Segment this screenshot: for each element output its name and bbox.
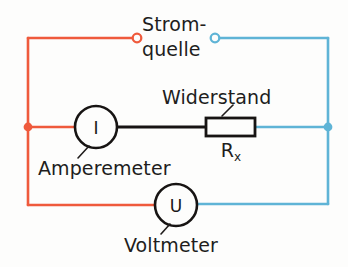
- source-label-line2: quelle: [142, 38, 201, 60]
- negative-terminal-icon[interactable]: [211, 34, 220, 43]
- voltmeter-letter: U: [170, 196, 182, 216]
- positive-terminal-icon[interactable]: [133, 34, 142, 43]
- resistor-symbol-r: R: [221, 139, 234, 161]
- circuit-diagram: I U Strom- quelle Widerstand Rx Ampereme…: [0, 0, 348, 267]
- resistor-symbol-subscript: x: [234, 150, 241, 164]
- circuit-svg: I U Strom- quelle Widerstand Rx Ampereme…: [0, 0, 348, 267]
- resistor-label: Widerstand: [162, 86, 271, 108]
- right-junction-dot-icon: [324, 123, 333, 132]
- ammeter-letter: I: [93, 118, 98, 138]
- ammeter-label: Amperemeter: [38, 157, 171, 179]
- resistor-symbol-label: Rx: [221, 139, 242, 164]
- source-label-line1: Strom-: [142, 13, 207, 35]
- voltmeter-leader-line: [161, 224, 170, 234]
- voltmeter-label: Voltmeter: [124, 234, 218, 256]
- resistor-symbol-icon[interactable]: [206, 118, 255, 136]
- left-junction-dot-icon: [24, 123, 33, 132]
